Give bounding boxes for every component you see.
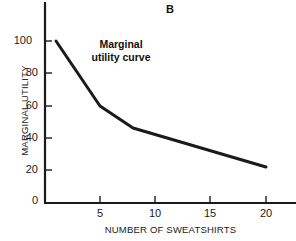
plot-area bbox=[0, 0, 296, 241]
curve-annotation-line-2: utility curve bbox=[70, 51, 172, 64]
y-tick-label-0: 0 bbox=[8, 194, 38, 206]
x-tick-label-20: 20 bbox=[251, 207, 281, 219]
x-axis-title: NUMBER OF SWEATSHIRTS bbox=[45, 224, 296, 235]
curve-annotation-line-1: Marginal bbox=[70, 38, 172, 51]
x-tick-label-5: 5 bbox=[85, 207, 115, 219]
x-tick-label-10: 10 bbox=[140, 207, 170, 219]
x-tick-label-15: 15 bbox=[195, 207, 225, 219]
marginal-utility-chart: B Marginal utility curve 0 20 40 60 80 1… bbox=[0, 0, 296, 241]
y-axis-title: MARGINAL UTILITY bbox=[19, 31, 30, 191]
curve-annotation: Marginal utility curve bbox=[70, 38, 172, 64]
panel-label-b: B bbox=[166, 3, 174, 15]
